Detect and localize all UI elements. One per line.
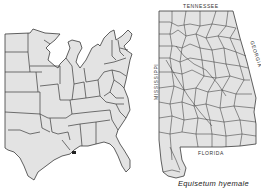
label-florida: FLORIDA (198, 150, 224, 156)
distribution-figure: TENNESSEE FLORIDA GEORGIA MISSISSIPPI Eq… (0, 0, 261, 194)
label-mississippi: MISSISSIPPI (153, 64, 159, 100)
occurrence-dot (72, 151, 76, 154)
species-caption: Equisetum hyemale (178, 179, 249, 188)
label-tennessee: TENNESSEE (183, 3, 219, 9)
us-map (0, 0, 261, 194)
